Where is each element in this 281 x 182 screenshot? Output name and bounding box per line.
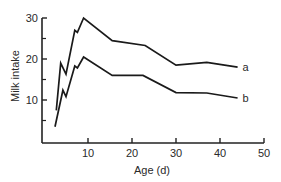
axes: 1020301020304050 — [26, 12, 270, 159]
series-line-b — [55, 57, 238, 127]
y-tick-label: 10 — [26, 94, 38, 106]
y-tick-label: 20 — [26, 53, 38, 65]
series-line-a — [56, 18, 237, 110]
x-tick-label: 30 — [170, 147, 182, 159]
x-tick-label: 40 — [214, 147, 226, 159]
x-tick-label: 50 — [258, 147, 270, 159]
series-label-b: b — [243, 92, 249, 104]
milk-intake-chart: 1020301020304050 ab Age (d) Milk intake — [0, 0, 281, 182]
y-axis-label: Milk intake — [9, 50, 21, 102]
x-axis-label: Age (d) — [134, 164, 170, 176]
series-label-a: a — [243, 61, 250, 73]
y-tick-label: 30 — [26, 12, 38, 24]
series-lines: ab — [55, 18, 250, 127]
x-tick-label: 10 — [82, 147, 94, 159]
x-tick-label: 20 — [126, 147, 138, 159]
